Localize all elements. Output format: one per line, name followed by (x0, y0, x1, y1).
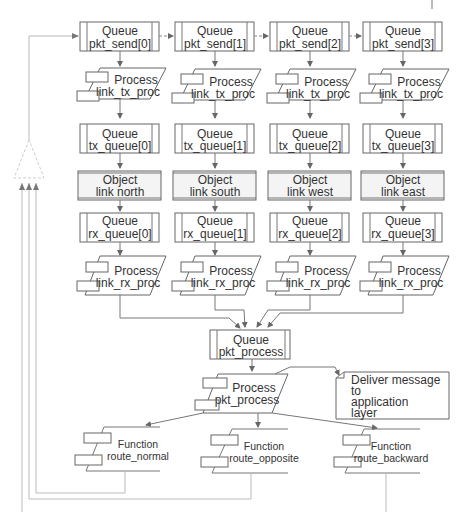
process-name-label: link_rx_proc (96, 276, 161, 290)
process-port-icon (276, 262, 298, 272)
process-link-rx-proc-1[interactable]: Process link_rx_proc (172, 256, 261, 295)
queue-name-label: tx_queue[1] (184, 139, 247, 153)
process-port-icon (181, 74, 203, 84)
object-link-east[interactable]: Object link east (361, 171, 444, 200)
process-link-tx-proc-0[interactable]: Process link_tx_proc (77, 68, 166, 101)
queue-name-label: pkt_send[1] (184, 37, 246, 51)
process-port-icon (181, 262, 203, 272)
queue-pkt-send-3[interactable]: Queue pkt_send[3] (363, 22, 442, 51)
function-port-icon (84, 433, 111, 443)
process-link-tx-proc-1[interactable]: Process link_tx_proc (172, 69, 261, 103)
queue-name-label: tx_queue[3] (372, 139, 435, 153)
queue-pkt-send-0[interactable]: Queue pkt_send[0] (80, 22, 159, 51)
queue-name-label: rx_queue[1] (183, 227, 246, 241)
queue-name-label: tx_queue[0] (89, 139, 152, 153)
rx-merge-connectors (120, 295, 403, 328)
process-name-label: pkt_process (215, 393, 280, 407)
queue-tx-queue-3[interactable]: Queue tx_queue[3] (363, 124, 442, 153)
function-port-icon (201, 457, 228, 467)
note-line: layer (351, 406, 377, 420)
process-name-label: link_rx_proc (379, 276, 444, 290)
queue-type-label: Queue (197, 214, 233, 228)
queue-tx-queue-1[interactable]: Queue tx_queue[1] (175, 124, 254, 153)
function-port-icon (343, 435, 370, 445)
queue-rx-queue-1[interactable]: Queue rx_queue[1] (175, 213, 254, 242)
queue-name-label: tx_queue[2] (279, 139, 342, 153)
object-link-north[interactable]: Object link north (78, 171, 161, 200)
process-name-label: link_tx_proc (286, 87, 350, 101)
queue-type-label: Queue (385, 214, 421, 228)
object-name-label: link south (190, 185, 241, 199)
queue-pkt-process[interactable]: Queue pkt_process (210, 330, 290, 359)
queue-rx-queue-0[interactable]: Queue rx_queue[0] (80, 213, 159, 242)
process-link-tx-proc-3[interactable]: Process link_tx_proc (360, 69, 449, 103)
queue-type-label: Queue (102, 214, 138, 228)
function-name-label: route_normal (107, 450, 169, 462)
process-pkt-process[interactable]: Process pkt_process (195, 374, 288, 413)
queue-type-label: Queue (292, 24, 328, 38)
queue-type-label: Queue (102, 24, 138, 38)
process-port-icon (276, 74, 298, 84)
column-2: Queue pkt_send[2] Process link_tx_proc Q… (267, 22, 356, 295)
function-route-normal[interactable]: Function route_normal (75, 427, 169, 471)
queue-tx-queue-2[interactable]: Queue tx_queue[2] (270, 124, 349, 153)
queue-tx-queue-0[interactable]: Queue tx_queue[0] (80, 124, 159, 153)
function-name-label: route_opposite (229, 452, 299, 464)
queue-type-label: Queue (292, 214, 328, 228)
process-link-tx-proc-2[interactable]: Process link_tx_proc (267, 69, 356, 103)
process-link-rx-proc-2[interactable]: Process link_rx_proc (267, 256, 356, 295)
process-port-icon (86, 262, 108, 272)
function-type-label: Function (118, 438, 158, 450)
object-name-label: link west (287, 185, 334, 199)
queue-type-label: Queue (197, 24, 233, 38)
process-port-icon (369, 74, 391, 84)
queue-name-label: rx_queue[0] (88, 227, 151, 241)
queue-pkt-send-2[interactable]: Queue pkt_send[2] (270, 22, 349, 51)
queue-rx-queue-3[interactable]: Queue rx_queue[3] (363, 213, 442, 242)
process-name-label: link_rx_proc (286, 276, 351, 290)
deliver-message-note[interactable]: Deliver message to application layer (336, 372, 449, 420)
queue-name-label: rx_queue[3] (371, 227, 434, 241)
function-type-label: Function (244, 440, 284, 452)
function-port-icon (75, 455, 102, 465)
function-route-opposite[interactable]: Function route_opposite (201, 429, 299, 473)
function-port-icon (211, 435, 238, 445)
queue-rx-queue-2[interactable]: Queue rx_queue[2] (270, 213, 349, 242)
queue-type-label: Queue (385, 24, 421, 38)
column-1: Queue pkt_send[1] Process link_tx_proc Q… (172, 22, 261, 295)
process-name-label: link_tx_proc (191, 87, 255, 101)
queue-name-label: pkt_send[3] (372, 37, 434, 51)
queue-name-label: pkt_send[2] (279, 37, 341, 51)
process-name-label: link_rx_proc (191, 276, 256, 290)
process-link-rx-proc-0[interactable]: Process link_rx_proc (77, 256, 166, 295)
queue-name-label: rx_queue[2] (278, 227, 341, 241)
process-port-icon (86, 72, 108, 82)
pipeline-diagram: Queue pkt_send[0] Process link_tx_proc Q… (0, 0, 466, 520)
note-line: Deliver message (351, 373, 441, 387)
object-name-label: link north (96, 185, 145, 199)
process-name-label: link_tx_proc (379, 87, 443, 101)
object-link-south[interactable]: Object link south (173, 171, 256, 200)
queue-name-label: pkt_send[0] (89, 37, 151, 51)
function-route-backward[interactable]: Function route_backward (334, 429, 429, 473)
process-port-icon (369, 262, 391, 272)
queue-pkt-send-1[interactable]: Queue pkt_send[1] (175, 22, 254, 51)
function-name-label: route_backward (354, 452, 429, 464)
column-0: Queue pkt_send[0] Process link_tx_proc Q… (77, 22, 166, 295)
queue-name-label: pkt_process (219, 345, 284, 359)
process-port-icon (203, 378, 227, 388)
process-link-rx-proc-3[interactable]: Process link_rx_proc (360, 256, 449, 295)
object-name-label: link east (381, 185, 426, 199)
process-name-label: link_tx_proc (96, 85, 160, 99)
function-type-label: Function (371, 440, 411, 452)
column-3: Queue pkt_send[3] Process link_tx_proc Q… (360, 22, 449, 295)
object-link-west[interactable]: Object link west (268, 171, 351, 200)
